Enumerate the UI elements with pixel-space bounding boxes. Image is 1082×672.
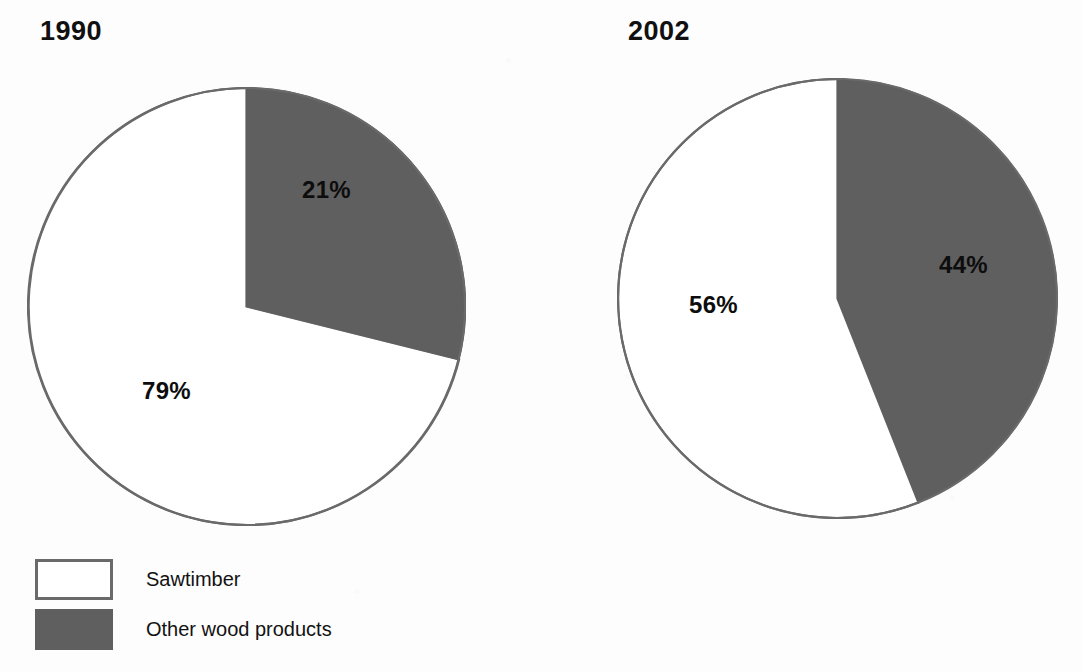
pie-1990-label-other-wood-products: 21%	[302, 178, 351, 202]
pie-chart-1990	[27, 87, 466, 526]
pie-2002-label-sawtimber: 56%	[689, 293, 738, 317]
legend-item-sawtimber: Sawtimber	[35, 554, 455, 604]
chart-legend: Sawtimber Other wood products	[35, 554, 455, 654]
legend-label-other-wood-products: Other wood products	[146, 619, 332, 639]
chart-title-1990: 1990	[40, 18, 102, 45]
legend-label-sawtimber: Sawtimber	[146, 569, 240, 589]
legend-swatch-other-wood-products	[35, 609, 113, 650]
pie-1990-label-sawtimber: 79%	[142, 379, 191, 403]
pie-1990-svg	[27, 87, 466, 526]
chart-title-2002: 2002	[628, 18, 690, 45]
pie-2002-svg	[617, 78, 1058, 519]
legend-swatch-sawtimber	[35, 559, 113, 600]
legend-item-other-wood-products: Other wood products	[35, 604, 455, 654]
pie-2002-label-other-wood-products: 44%	[939, 253, 988, 277]
pie-chart-figure: 1990 21% 79% 2002 44% 56% Sawtimber	[0, 0, 1082, 672]
pie-chart-2002	[617, 78, 1058, 519]
